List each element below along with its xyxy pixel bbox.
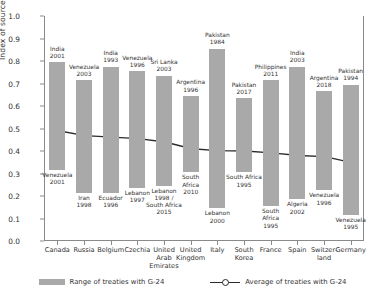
y-tick-label: 0.0 <box>0 237 20 246</box>
range-high-label: India 2001 <box>30 46 84 60</box>
legend-item-range: Range of treaties with G-24 <box>39 278 165 286</box>
range-bar[interactable] <box>316 91 332 190</box>
legend-item-average: Average of treaties with G-24 <box>210 278 346 286</box>
y-tick-label: 0.5 <box>0 124 20 133</box>
y-tick-label: 0.8 <box>0 57 20 66</box>
x-tick-mark <box>217 241 218 245</box>
x-category-label: Germany <box>324 246 378 254</box>
y-tick-label: 0.6 <box>0 102 20 111</box>
x-tick-mark <box>164 241 165 245</box>
x-tick-mark <box>271 241 272 245</box>
y-axis-title: Index of source taxing rights <box>0 0 7 60</box>
y-tick-label: 0.7 <box>0 79 20 88</box>
range-bar[interactable] <box>343 85 359 216</box>
x-tick-mark <box>57 241 58 245</box>
legend-label-range: Range of treaties with G-24 <box>70 278 165 286</box>
x-tick-mark <box>244 241 245 245</box>
y-tick-label: 0.2 <box>0 192 20 201</box>
range-swatch-icon <box>39 279 65 285</box>
y-tick-label: 0.9 <box>0 34 20 43</box>
y-tick-label: 0.4 <box>0 147 20 156</box>
range-high-label: Pakistan 1994 <box>324 68 378 82</box>
range-bar[interactable] <box>76 80 92 193</box>
chart-root: Index of source taxing rights 0.00.10.20… <box>0 0 385 298</box>
y-tick-label: 0.3 <box>0 169 20 178</box>
x-tick-mark <box>324 241 325 245</box>
range-low-label: Lebanon 2000 <box>190 210 244 224</box>
range-high-label: Sri Lanka 2003 <box>137 59 191 73</box>
range-bar[interactable] <box>103 67 119 193</box>
range-high-label: Pakistan 1984 <box>190 32 244 46</box>
range-bar[interactable] <box>129 71 145 188</box>
x-tick-mark <box>351 241 352 245</box>
range-low-label: Venezuela 1995 <box>324 217 378 231</box>
y-tick-label: 0.1 <box>0 214 20 223</box>
range-bar[interactable] <box>263 80 279 206</box>
x-tick-mark <box>191 241 192 245</box>
x-tick-mark <box>84 241 85 245</box>
chart-legend: Range of treaties with G-24 Average of t… <box>0 278 385 298</box>
range-high-label: India 2003 <box>270 50 324 64</box>
x-tick-mark <box>137 241 138 245</box>
range-bar[interactable] <box>236 98 252 172</box>
range-bar[interactable] <box>49 62 65 170</box>
x-tick-mark <box>111 241 112 245</box>
y-tick-label: 1.0 <box>0 12 20 21</box>
line-marker-icon <box>210 279 240 285</box>
x-tick-mark <box>297 241 298 245</box>
range-bar[interactable] <box>183 96 199 173</box>
legend-label-average: Average of treaties with G-24 <box>245 278 346 286</box>
